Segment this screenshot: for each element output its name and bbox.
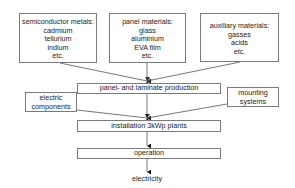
box-line: components xyxy=(26,103,76,112)
box-item: etc. xyxy=(110,52,185,61)
step-label: panel- and laminate production xyxy=(100,84,199,93)
semiconductor-metals-box: semiconductor metals: cadmium tellurium … xyxy=(19,13,97,63)
electric-components-box: electric components xyxy=(25,92,77,112)
panel-production-box: panel- and laminate production xyxy=(77,83,221,94)
installation-box: installation 3kWp plants xyxy=(77,120,221,132)
operation-box: operation xyxy=(77,148,221,159)
step-label: installation 3kWp plants xyxy=(111,122,187,131)
step-label: operation xyxy=(134,149,164,158)
mounting-systems-box: mounting systems xyxy=(227,87,279,107)
panel-materials-box: panel materials: glass aluminium EVA fil… xyxy=(109,13,186,63)
auxiliary-materials-box: auxiliary materials: gasses acids etc. xyxy=(200,13,279,62)
box-item: etc. xyxy=(20,52,96,61)
box-item: etc. xyxy=(201,48,278,57)
box-line: systems xyxy=(228,98,278,107)
electricity-output-label: electricity xyxy=(117,174,177,183)
